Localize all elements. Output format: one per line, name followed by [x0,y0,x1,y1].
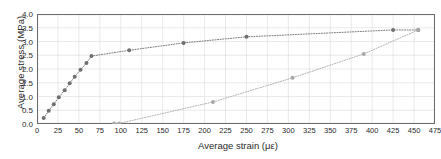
data-point [362,52,366,56]
data-point [47,109,51,113]
x-tick-label: 350 [324,126,337,135]
x-tick-label: 300 [282,126,295,135]
plot-canvas [37,14,435,124]
x-tick-label: 450 [408,126,421,135]
x-tick-label: 200 [198,126,211,135]
data-point [244,35,248,39]
data-point [68,81,72,85]
data-point [391,28,395,32]
data-point [182,41,186,45]
data-point [79,68,83,72]
data-point [112,121,116,124]
data-point [291,76,295,80]
x-tick-label: 375 [345,126,358,135]
x-tick-label: 25 [54,126,62,135]
data-point [127,48,131,52]
x-tick-label: 125 [135,126,148,135]
data-point [211,100,215,104]
data-point [89,54,93,58]
series-line [114,30,418,124]
x-tick-label: 175 [177,126,190,135]
plot-area [37,14,435,124]
x-tick-label: 50 [75,126,83,135]
data-point [63,88,67,92]
x-tick-label: 100 [115,126,128,135]
x-tick-label: 325 [303,126,316,135]
x-tick-label: 150 [156,126,169,135]
x-tick-label: 425 [387,126,400,135]
data-point [73,75,77,79]
x-tick-label: 75 [96,126,104,135]
series-unloading-curve-lower [112,28,420,124]
x-tick-label: 225 [219,126,232,135]
data-point [42,116,46,120]
x-tick-label: 400 [366,126,379,135]
x-tick-label: 475 [429,126,441,135]
data-point [416,28,420,32]
x-tick-label: 250 [240,126,253,135]
x-tick-label: 0 [35,126,39,135]
data-point [57,95,61,99]
x-tick-label: 275 [261,126,274,135]
data-point [52,102,56,106]
data-point [84,61,88,65]
